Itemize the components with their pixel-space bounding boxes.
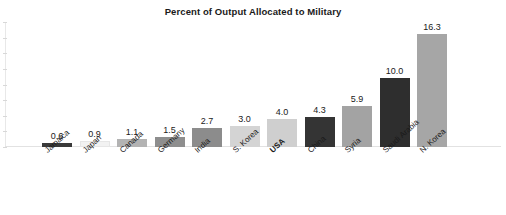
- bar-group[interactable]: 4.3: [305, 22, 335, 147]
- bar-chart: Percent of Output Allocated to Military …: [0, 0, 506, 215]
- bar-group[interactable]: 4.0: [267, 22, 297, 147]
- bar-group[interactable]: 0.9: [80, 22, 110, 147]
- bar-value-label: 4.3: [313, 105, 326, 115]
- bar-value-label: 16.3: [423, 22, 441, 32]
- bar-value-label: 5.9: [351, 94, 364, 104]
- bar-group[interactable]: 2.7: [192, 22, 222, 147]
- bar-value-label: 4.0: [276, 107, 289, 117]
- bar-value-label: 3.0: [238, 114, 251, 124]
- bar-group[interactable]: 1.1: [117, 22, 147, 147]
- chart-title: Percent of Output Allocated to Military: [0, 6, 506, 17]
- y-axis-tick: [3, 147, 7, 148]
- bar-value-label: 10.0: [386, 66, 404, 76]
- bar-value-label: 2.7: [201, 116, 214, 126]
- bar-group[interactable]: 0.6: [42, 22, 72, 147]
- bar-group[interactable]: 5.9: [342, 22, 372, 147]
